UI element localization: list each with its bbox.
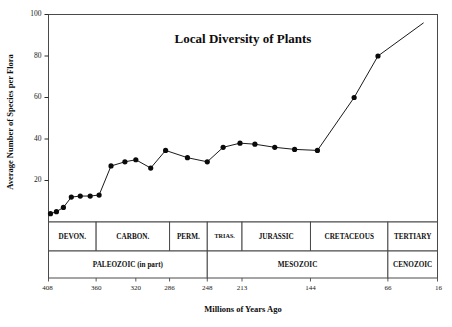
period-band-label: TERTIARY (394, 233, 432, 241)
period-band-label: TRIAS. (214, 232, 235, 239)
data-point-marker (108, 163, 113, 168)
y-tick-label: 20 (34, 175, 42, 184)
data-point-marker (252, 142, 257, 147)
data-point-marker (163, 148, 168, 153)
data-point-marker (122, 159, 127, 164)
period-band-label: CARBON. (116, 233, 149, 241)
data-point-marker (237, 141, 242, 146)
x-tick-label: 213 (237, 284, 248, 292)
data-point-marker (69, 195, 74, 200)
x-axis-title: Millions of Years Ago (204, 304, 281, 314)
data-point-marker (185, 155, 190, 160)
x-tick-label: 248 (202, 284, 213, 292)
x-tick-label: 66 (384, 284, 392, 292)
data-point-marker (205, 159, 210, 164)
x-tick-label: 286 (164, 284, 175, 292)
data-point-marker (78, 193, 83, 198)
data-point-marker (272, 145, 277, 150)
data-point-marker (315, 148, 320, 153)
era-band-label: CENOZOIC (393, 261, 432, 269)
page-title: Local Diversity of Plants (175, 31, 312, 46)
chart-figure: 20406080100 4083603202862482131446616 DE… (0, 0, 452, 327)
y-tick-label: 100 (30, 9, 42, 18)
period-band-label: JURASSIC (259, 233, 294, 241)
y-tick-label: 60 (34, 92, 42, 101)
era-band-label: MESOZOIC (278, 261, 318, 269)
y-tick-label: 40 (34, 134, 42, 143)
x-tick-label: 16 (435, 284, 443, 292)
y-axis-title: Average Number of Species per Flora (5, 53, 15, 189)
timescale-bands: DEVON.CARBON.PERM.TRIAS.JURASSICCRETACEO… (49, 222, 438, 278)
data-point-marker (292, 147, 297, 152)
period-band-label: DEVON. (59, 233, 87, 241)
data-point-marker (148, 165, 153, 170)
data-point-marker (375, 53, 380, 58)
era-band-label: PALEOZOIC (in part) (93, 261, 164, 269)
data-point-marker (221, 145, 226, 150)
x-tick-label: 408 (42, 284, 53, 292)
data-point-marker (133, 157, 138, 162)
data-point-marker (88, 193, 93, 198)
data-point-marker (61, 205, 66, 210)
data-point-marker (48, 211, 53, 216)
x-tick-label: 360 (91, 284, 102, 292)
y-tick-label: 80 (34, 51, 42, 60)
x-tick-label: 144 (305, 284, 316, 292)
data-point-marker (97, 192, 102, 197)
chart-svg: 20406080100 4083603202862482131446616 DE… (0, 0, 452, 327)
x-tick-label: 320 (131, 284, 142, 292)
period-band-label: CRETACEOUS (324, 233, 373, 241)
data-point-marker (352, 95, 357, 100)
data-point-marker (54, 209, 59, 214)
period-band-label: PERM. (177, 233, 200, 241)
